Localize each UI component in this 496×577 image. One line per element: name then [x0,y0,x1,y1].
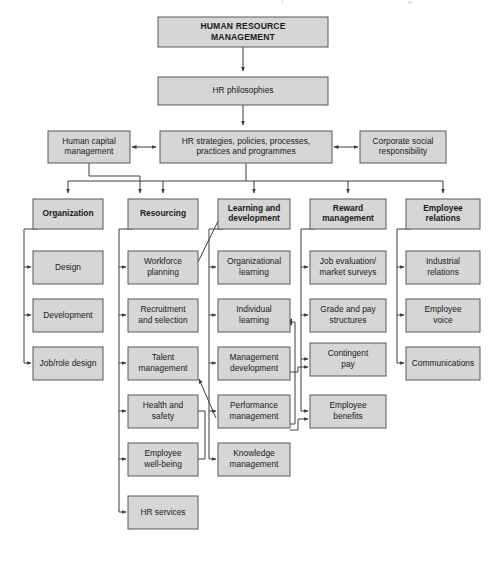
item-job-role-design-label: Job/role design [40,358,97,368]
item-management-development[interactable]: Managementdevelopment [218,347,290,380]
column-header-organization-label: Organization [42,208,93,218]
item-job-evaluation-market-surveys[interactable]: Job evaluation/market surveys [310,251,386,284]
hr-philosophies[interactable]: HR philosophies [158,77,328,105]
diagram-canvas: HUMAN RESOURCEMANAGEMENTHR philosophiesH… [0,0,496,577]
corporate-social-responsibility-label: responsibility [379,146,428,156]
item-knowledge-management-label: management [230,459,280,469]
item-performance-management-label: Performance [230,400,278,410]
item-workforce-planning-label: planning [147,267,179,277]
item-industrial-relations-label: Industrial [426,256,460,266]
column-header-employee-relations-label: relations [426,213,461,223]
item-design-label: Design [55,262,81,272]
human-resource-management-label: HUMAN RESOURCE [200,21,285,31]
item-recruitment-and-selection[interactable]: Recruitmentand selection [128,299,198,332]
item-hr-services-label: HR services [140,507,185,517]
item-grade-and-pay-structures[interactable]: Grade and paystructures [310,299,386,332]
item-contingent-pay-label: pay [341,359,355,369]
item-performance-management-label: management [230,411,280,421]
column-header-reward-management[interactable]: Rewardmanagement [310,199,386,229]
item-workforce-planning[interactable]: Workforceplanning [128,251,198,284]
corporate-social-responsibility-label: Corporate social [373,136,434,146]
column-header-reward-management-label: Reward [333,203,363,213]
item-employee-benefits[interactable]: Employeebenefits [310,395,386,428]
item-organizational-learning-label: Organizational [227,256,281,266]
item-employee-well-being[interactable]: Employeewell-being [128,443,198,476]
item-communications[interactable]: Communications [406,347,480,380]
item-employee-well-being-label: Employee [144,448,182,458]
column-header-reward-management-label: management [322,213,374,223]
item-contingent-pay-label: Contingent [328,348,369,358]
column-header-learning-and-development-label: Learning and [228,203,281,213]
item-job-role-design[interactable]: Job/role design [33,347,103,380]
item-industrial-relations[interactable]: Industrialrelations [406,251,480,284]
item-knowledge-management-label: Knowledge [233,448,275,458]
human-resource-management-label: MANAGEMENT [211,32,276,42]
item-hr-services[interactable]: HR services [128,496,198,529]
human-capital-management[interactable]: Human capitalmanagement [48,131,130,163]
item-employee-well-being-label: well-being [143,459,182,469]
item-communications-label: Communications [412,358,474,368]
item-industrial-relations-label: relations [427,267,459,277]
hr-strategies-label: practices and programmes [196,146,295,156]
item-grade-and-pay-structures-label: Grade and pay [320,304,376,314]
column-header-learning-and-development[interactable]: Learning anddevelopment [218,199,290,229]
hr-strategies-label: HR strategies, policies, processes, [182,136,310,146]
column-header-employee-relations-label: Employee [423,203,463,213]
connector-management-development-to-contingent [290,367,298,372]
scan-artifact [282,0,412,5]
item-talent-management[interactable]: Talentmanagement [128,347,198,380]
hr-strategies[interactable]: HR strategies, policies, processes,pract… [160,131,332,163]
item-performance-management[interactable]: Performancemanagement [218,395,290,428]
item-organizational-learning[interactable]: Organizationallearning [218,251,290,284]
item-health-and-safety-label: Health and [143,400,184,410]
box-layer: HUMAN RESOURCEMANAGEMENTHR philosophiesH… [33,17,480,529]
column-header-organization[interactable]: Organization [33,199,103,229]
connector-performance-to-individual-learning [290,322,295,424]
corporate-social-responsibility[interactable]: Corporate socialresponsibility [360,131,446,163]
item-management-development-label: Management [230,352,280,362]
column-header-learning-and-development-label: development [228,213,280,223]
item-employee-benefits-label: benefits [333,411,362,421]
item-talent-management-label: Talent [152,352,175,362]
item-employee-benefits-label: Employee [329,400,367,410]
item-management-development-label: development [230,363,279,373]
item-grade-and-pay-structures-label: structures [330,315,367,325]
column-header-resourcing[interactable]: Resourcing [128,199,198,229]
connector-performance-to-talent-management [199,379,216,418]
item-organizational-learning-label: learning [239,267,269,277]
item-knowledge-management[interactable]: Knowledgemanagement [218,443,290,476]
item-job-evaluation-market-surveys-label: market surveys [320,267,377,277]
item-contingent-pay[interactable]: Contingentpay [310,343,386,376]
item-employee-voice[interactable]: Employeevoice [406,299,480,332]
item-design[interactable]: Design [33,251,103,284]
hr-framework-diagram: HUMAN RESOURCEMANAGEMENTHR philosophiesH… [0,0,496,577]
item-recruitment-and-selection-label: Recruitment [140,304,186,314]
item-individual-learning-label: learning [239,315,269,325]
item-development[interactable]: Development [33,299,103,332]
item-individual-learning-label: Individual [236,304,272,314]
item-job-evaluation-market-surveys-label: Job evaluation/ [320,256,377,266]
item-workforce-planning-label: Workforce [144,256,182,266]
human-capital-management-label: Human capital [62,136,116,146]
item-employee-voice-label: voice [433,315,453,325]
item-health-and-safety[interactable]: Health andsafety [128,395,198,428]
item-individual-learning[interactable]: Individuallearning [218,299,290,332]
column-header-resourcing-label: Resourcing [140,208,186,218]
item-health-and-safety-label: safety [152,411,175,421]
connector-resourcing-to-learning-bracket [198,411,205,459]
item-recruitment-and-selection-label: and selection [138,315,188,325]
human-capital-management-label: management [65,146,115,156]
item-development-label: Development [43,310,93,320]
column-header-employee-relations[interactable]: Employeerelations [406,199,480,229]
human-resource-management[interactable]: HUMAN RESOURCEMANAGEMENT [158,17,328,47]
hr-philosophies-label: HR philosophies [213,85,274,95]
item-talent-management-label: management [139,363,189,373]
item-employee-voice-label: Employee [424,304,462,314]
